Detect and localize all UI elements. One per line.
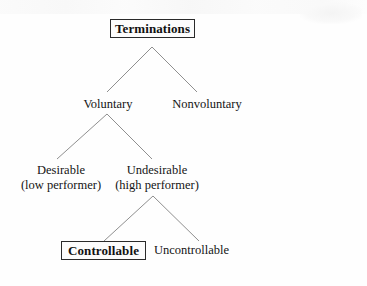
node-desirable-sublabel: (low performer) <box>12 178 110 193</box>
node-undesirable: Undesirable (high performer) <box>105 163 209 193</box>
edge-root-voluntary <box>107 47 152 92</box>
edge-voluntary-desirable <box>57 114 107 159</box>
node-terminations-label: Terminations <box>115 22 190 35</box>
node-desirable: Desirable (low performer) <box>12 163 110 193</box>
edge-undesirable-uncontrollable <box>153 196 199 241</box>
node-nonvoluntary: Nonvoluntary <box>157 97 257 111</box>
node-controllable-box[interactable]: Controllable <box>61 241 146 260</box>
node-undesirable-label: Undesirable <box>105 163 209 178</box>
node-desirable-label: Desirable <box>12 163 110 178</box>
node-uncontrollable-label: Uncontrollable <box>154 243 264 257</box>
node-nonvoluntary-label: Nonvoluntary <box>157 97 257 111</box>
edge-voluntary-undesirable <box>107 114 152 159</box>
edge-root-nonvoluntary <box>152 47 197 92</box>
node-controllable-label: Controllable <box>68 244 139 257</box>
node-uncontrollable: Uncontrollable <box>154 243 264 257</box>
node-undesirable-sublabel: (high performer) <box>105 178 209 193</box>
node-terminations-box[interactable]: Terminations <box>110 19 195 38</box>
node-voluntary: Voluntary <box>70 97 146 111</box>
edge-undesirable-controllable <box>104 196 153 241</box>
node-voluntary-label: Voluntary <box>70 97 146 111</box>
diagram-canvas: Terminations Voluntary Nonvoluntary Desi… <box>0 0 367 286</box>
